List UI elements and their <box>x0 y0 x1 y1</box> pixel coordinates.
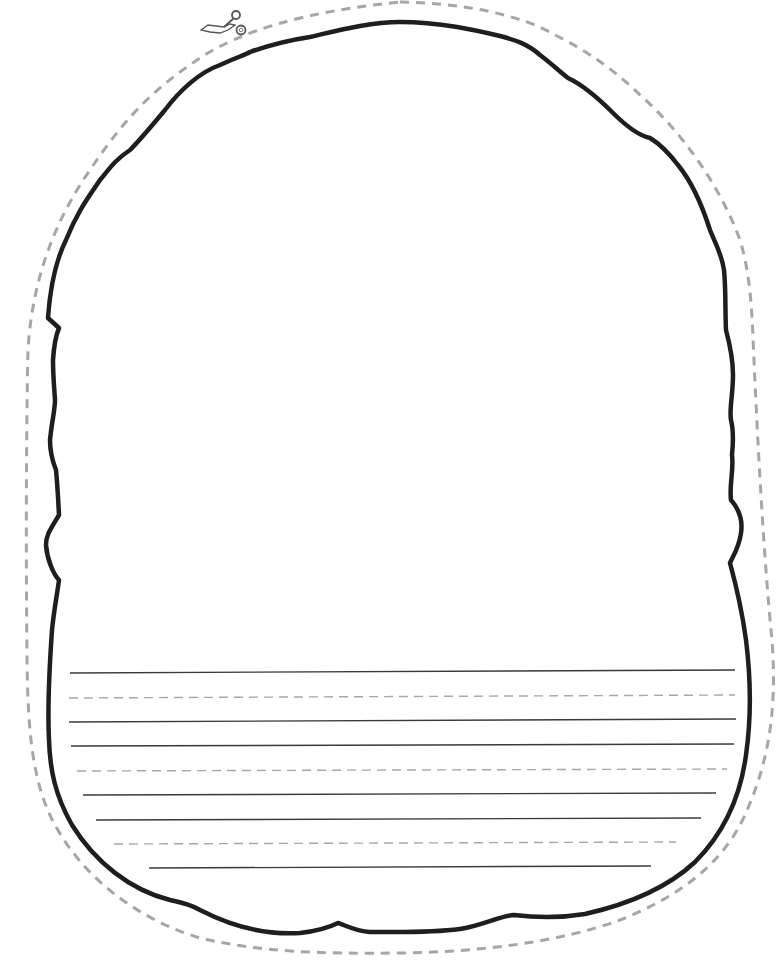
shape-outline <box>46 22 750 933</box>
worksheet-canvas <box>0 0 784 980</box>
scissors-icon <box>201 11 246 35</box>
